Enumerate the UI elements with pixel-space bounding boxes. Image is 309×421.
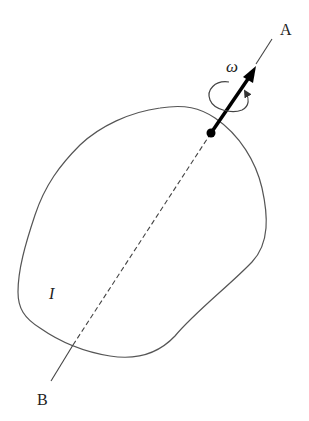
- omega-vector-shaft: [211, 76, 250, 133]
- diagram-canvas: A B ω I: [0, 0, 309, 421]
- axis-line-bottom: [51, 345, 73, 381]
- pivot-point: [207, 129, 216, 138]
- axis-line-top: [256, 39, 272, 64]
- label-omega: ω: [226, 57, 238, 76]
- label-inertia: I: [48, 285, 55, 302]
- axis-line-dashed: [73, 133, 211, 345]
- body-outline: [18, 106, 266, 357]
- label-a: A: [280, 21, 292, 38]
- label-b: B: [37, 391, 48, 408]
